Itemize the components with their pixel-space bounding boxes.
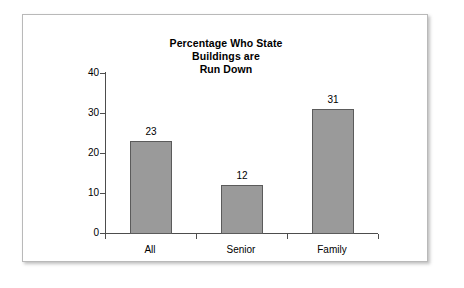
x-tick-boundary-3 — [378, 234, 379, 239]
chart-panel: Percentage Who State Buildings are Run D… — [22, 14, 428, 262]
x-category-label-family: Family — [286, 244, 378, 256]
y-tick-20 — [100, 153, 105, 154]
bar-value-all: 23 — [121, 126, 181, 137]
y-tick-10 — [100, 193, 105, 194]
x-tick-boundary-1 — [196, 234, 197, 239]
chart-screenshot: Percentage Who State Buildings are Run D… — [0, 0, 464, 288]
x-tick-boundary-0 — [105, 234, 106, 239]
x-category-label-all: All — [104, 244, 196, 256]
y-tick-label-20: 20 — [59, 148, 99, 158]
bar-family — [312, 109, 354, 234]
y-tick-30 — [100, 113, 105, 114]
bar-value-senior: 12 — [212, 170, 272, 181]
y-axis-line — [105, 72, 106, 234]
x-category-label-senior: Senior — [195, 244, 287, 256]
y-tick-label-0: 0 — [59, 228, 99, 238]
y-tick-label-30: 30 — [59, 108, 99, 118]
x-tick-boundary-2 — [287, 234, 288, 239]
bar-value-family: 31 — [303, 94, 363, 105]
y-tick-label-10: 10 — [59, 188, 99, 198]
bar-senior — [221, 185, 263, 234]
y-tick-label-40: 40 — [59, 68, 99, 78]
y-tick-40 — [100, 73, 105, 74]
plot-area: 0 10 20 30 40 23 12 31 All Senior — [23, 15, 429, 263]
bar-all — [130, 141, 172, 234]
